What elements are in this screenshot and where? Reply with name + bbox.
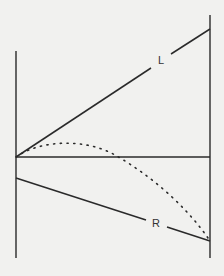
line-L-upper-segment [171, 29, 210, 54]
label-R: R [152, 217, 160, 229]
line-R-left-segment [16, 178, 146, 220]
line-L-lower-segment [16, 68, 151, 157]
label-L: L [158, 54, 164, 66]
line-R-right-segment [167, 227, 210, 241]
diagram-canvas: L R [0, 0, 224, 276]
